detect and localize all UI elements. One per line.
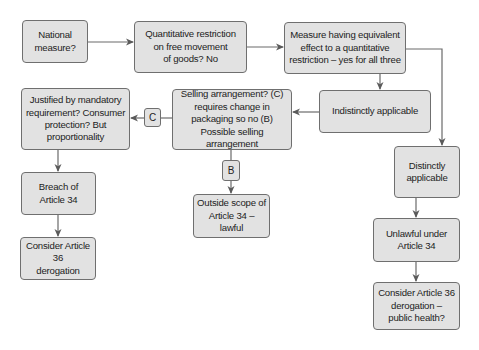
node-text: Consider Article 36 xyxy=(24,240,92,265)
node-text: of goods? No xyxy=(145,53,236,65)
node-text: Distinctly xyxy=(406,160,447,172)
node-text: derogation – xyxy=(378,300,455,312)
node-unlawful-article-34: Unlawful underArticle 34 xyxy=(373,218,460,262)
node-text: Possible selling arrangement xyxy=(176,126,288,151)
node-text: Justified by mandatory xyxy=(26,94,125,106)
node-selling-arrangement: Selling arrangement? (C)requires change … xyxy=(172,89,292,150)
node-text: Breach of xyxy=(39,181,78,193)
flowchart-canvas: Nationalmeasure? Quantitative restrictio… xyxy=(0,0,479,350)
node-text: protection? But xyxy=(26,119,125,131)
node-distinctly-applicable: Distinctlyapplicable xyxy=(394,146,460,198)
node-outside-scope: Outside scope ofArticle 34 – lawful xyxy=(193,194,270,238)
node-text: Measure having equivalent xyxy=(289,29,401,41)
node-text: effect to a quantitative xyxy=(289,42,401,54)
node-text: proportionality xyxy=(26,131,125,143)
node-indistinctly-applicable: Indistinctly applicable xyxy=(319,90,431,133)
node-meqr: Measure having equivalenteffect to a qua… xyxy=(284,22,406,74)
node-text: Consider Article 36 xyxy=(378,287,455,299)
node-text: on free movement xyxy=(145,41,236,53)
tag-text: C xyxy=(149,112,156,123)
node-consider-article-36-left: Consider Article 36derogation xyxy=(20,237,96,280)
node-text: Selling arrangement? (C) xyxy=(176,88,288,100)
node-text: packaging so no (B) xyxy=(176,113,288,125)
node-text: requirement? Consumer xyxy=(26,107,125,119)
node-text: Quantitative restriction xyxy=(145,28,236,40)
node-breach-article-34: Breach ofArticle 34 xyxy=(21,172,96,215)
node-quantitative-restriction: Quantitative restrictionon free movement… xyxy=(134,21,247,73)
node-text: requires change in xyxy=(176,101,288,113)
node-text: applicable xyxy=(406,172,447,184)
node-text: derogation xyxy=(24,265,92,277)
branch-tag-c: C xyxy=(144,108,161,127)
node-text: Outside scope of xyxy=(197,197,266,209)
node-national-measure: Nationalmeasure? xyxy=(22,20,88,63)
node-text: Unlawful under xyxy=(386,228,447,240)
node-text: Article 34 – lawful xyxy=(197,210,266,235)
node-text: restriction – yes for all three xyxy=(289,54,401,66)
node-justified-mandatory-requirement: Justified by mandatoryrequirement? Consu… xyxy=(21,88,130,150)
branch-tag-b: B xyxy=(222,160,240,181)
node-text: National xyxy=(34,29,75,41)
node-text: Indistinctly applicable xyxy=(332,105,418,117)
node-text: Article 34 xyxy=(386,240,447,252)
node-consider-article-36-right: Consider Article 36derogation –public he… xyxy=(373,282,460,330)
node-text: measure? xyxy=(34,42,75,54)
node-text: public health? xyxy=(378,312,455,324)
tag-text: B xyxy=(228,165,235,176)
node-text: Article 34 xyxy=(39,194,78,206)
